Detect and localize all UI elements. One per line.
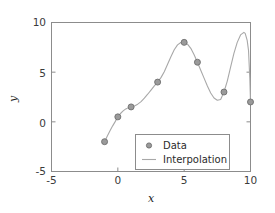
legend-marker-circle-icon	[146, 143, 151, 148]
data-point	[181, 39, 187, 45]
y-axis-title: y	[7, 95, 20, 103]
x-axis-title: x	[148, 192, 155, 205]
legend-label-data: Data	[163, 140, 187, 151]
y-tick-label: -5	[36, 165, 46, 177]
data-point	[102, 139, 108, 145]
data-point	[155, 79, 161, 85]
y-tick-label: 5	[39, 67, 46, 79]
data-markers	[102, 39, 254, 144]
x-tick-label: -5	[46, 174, 56, 186]
data-point	[248, 99, 254, 105]
x-tick-label: 5	[181, 174, 188, 186]
chart-figure: 10 5 0 -5 -5 0 5 10 x y Data Interpolati…	[0, 0, 275, 213]
y-tick-label: 10	[33, 16, 46, 28]
data-point	[128, 104, 134, 110]
y-tick-label: 0	[39, 117, 46, 129]
x-tick-label: 10	[244, 174, 257, 186]
data-point	[194, 59, 200, 65]
legend-label-interpolation: Interpolation	[163, 154, 227, 165]
legend: Data Interpolation	[136, 135, 230, 170]
interpolation-curve	[105, 32, 251, 141]
x-tick-label: 0	[114, 174, 121, 186]
data-point	[115, 114, 121, 120]
data-point	[221, 89, 227, 95]
line-chart: 10 5 0 -5 -5 0 5 10 x y Data Interpolati…	[0, 0, 275, 213]
